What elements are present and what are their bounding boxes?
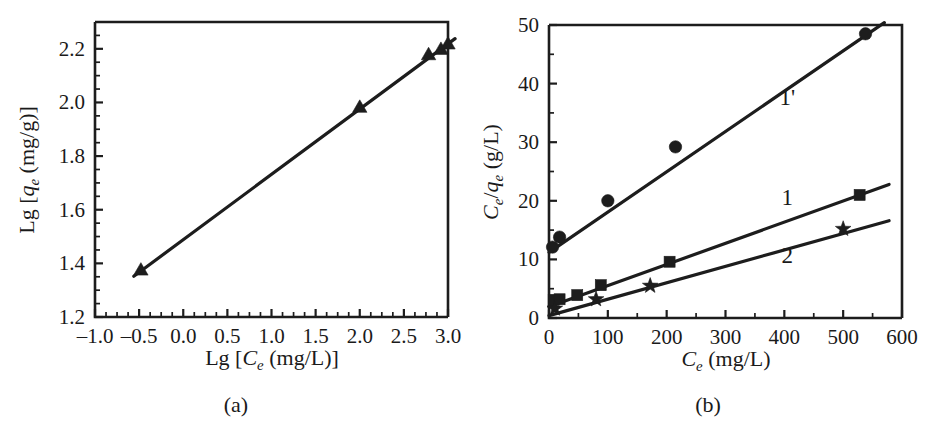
panel-a-y-tick-labels: 1.21.41.61.82.02.2 [59,37,86,329]
fit-line-Freundlich fit [134,39,455,277]
x-tick-label: 2.5 [391,324,417,348]
panel-b-caption: (b) [695,392,721,417]
y-tick-label: 20 [518,189,539,213]
panel-a-plot: –1.0–0.50.00.51.01.52.02.53.0 1.21.41.61… [0,0,472,431]
panel-a-data-layer [134,37,456,277]
x-tick-label: 400 [769,325,801,349]
panel-b-axis-frame [549,25,902,318]
y-tick-label: 40 [518,72,539,96]
y-tick-label: 0 [529,306,540,330]
data-point-square-1-3 [595,280,606,291]
panel-a-frame-top-right [95,22,448,317]
figure-container: –1.0–0.50.00.51.01.52.02.53.0 1.21.41.61… [0,0,944,431]
panel-b-plot: 0100200300400500600 01020304050 1'12 Ce … [472,0,944,431]
x-tick-label: –0.5 [120,324,158,348]
data-point-circle-0-1 [553,231,565,243]
data-point-square-1-4 [664,256,675,267]
x-tick-label: 0 [544,325,555,349]
series-label-1: 1 [782,185,794,210]
panel-b-frame-top-right [549,25,902,318]
fit-line-1' [549,23,884,253]
panel-b-x-axis-title: Ce (mg/L) [681,346,770,374]
y-tick-label: 1.6 [59,198,85,222]
data-point-square-1-5 [854,189,865,200]
x-tick-label: 3.0 [435,324,461,348]
y-tick-label: 30 [518,130,539,154]
fit-line-2 [549,221,889,316]
panel-b-minor-ticks [549,54,873,318]
panel-b-y-tick-labels: 01020304050 [518,13,539,330]
panel-b-major-ticks [549,25,902,318]
data-point-circle-0-2 [602,195,614,207]
series-label-1': 1' [779,85,795,110]
y-tick-label: 1.8 [59,144,85,168]
panel-a: –1.0–0.50.00.51.01.52.02.53.0 1.21.41.61… [0,0,472,431]
x-tick-label: 0.0 [170,324,196,348]
y-tick-label: 50 [518,13,539,37]
y-tick-label: 1.4 [59,251,86,275]
panel-a-caption: (a) [224,392,248,417]
y-tick-label: 2.0 [59,90,85,114]
data-point-circle-0-3 [669,141,681,153]
panel-a-axis-frame [95,22,448,317]
y-tick-label: 1.2 [59,305,85,329]
data-point-square-1-2 [572,290,583,301]
y-tick-label: 2.2 [59,37,85,61]
x-tick-label: 100 [592,325,624,349]
panel-b: 0100200300400500600 01020304050 1'12 Ce … [472,0,944,431]
panel-b-series-labels: 1'12 [779,85,795,268]
panel-b-y-axis-title: Ce/qe (g/L) [478,124,506,220]
y-tick-label: 10 [518,247,539,271]
x-tick-label: 2.0 [347,324,373,348]
x-tick-label: 200 [651,325,683,349]
series-label-2: 2 [782,243,794,268]
panel-b-data-layer [546,23,889,316]
panel-a-x-axis-title: Lg [Ce (mg/L)] [205,345,339,373]
panel-a-major-ticks [95,49,448,317]
x-tick-label: 500 [827,325,859,349]
panel-a-y-axis-title: Lg [qe (mg/g)] [14,106,42,234]
data-point-circle-0-4 [859,28,871,40]
x-tick-label: 600 [886,325,918,349]
